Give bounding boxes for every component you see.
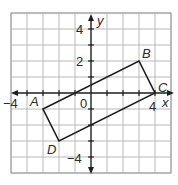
rectangle-abcd	[43, 61, 155, 141]
vertex-label-c: C	[158, 80, 168, 95]
y-axis	[88, 14, 94, 174]
tick-label-origin: 0	[80, 96, 87, 111]
vertex-label-b: B	[142, 46, 151, 61]
y-axis-label: y	[96, 13, 105, 28]
vertex-label-a: A	[29, 94, 39, 109]
tick-label-x-neg4: −4	[3, 96, 18, 111]
tick-label-x-4: 4	[149, 99, 156, 114]
x-axis-label: x	[161, 95, 169, 110]
vertex-label-d: D	[47, 142, 56, 157]
y-axis-up-arrow-icon	[88, 14, 94, 21]
tick-label-y-4: 4	[76, 22, 83, 37]
tick-label-y-neg4: −4	[67, 151, 82, 166]
tick-label-y-2: 2	[76, 54, 83, 69]
coordinate-plane: y x −4 4 4 2 −4 0 A B C D	[0, 0, 178, 185]
